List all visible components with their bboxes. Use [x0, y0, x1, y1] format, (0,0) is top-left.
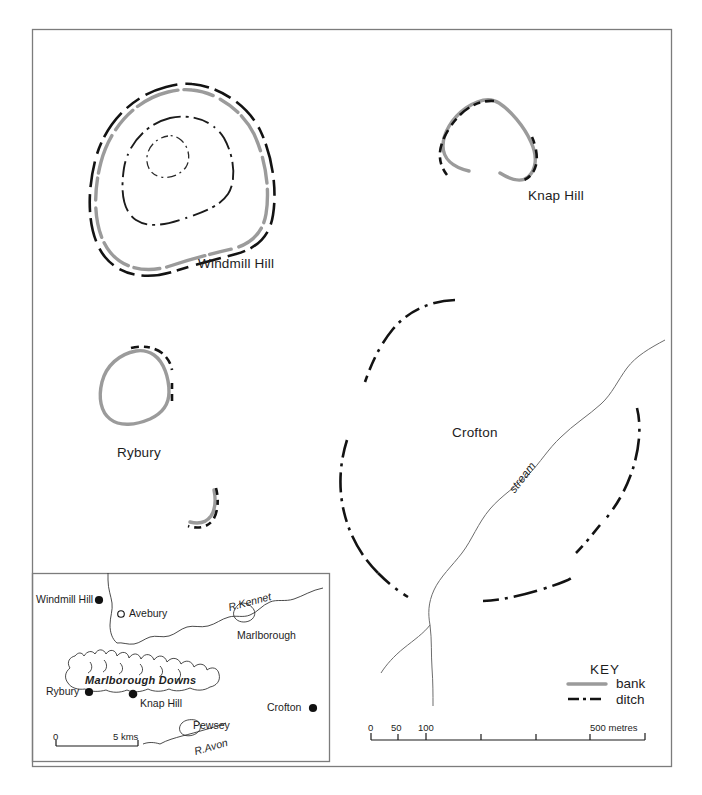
inset-label-knap-hill: Knap Hill — [140, 697, 182, 709]
inset-label-crofton: Crofton — [267, 701, 301, 713]
knap-hill-bank — [443, 100, 535, 180]
inset-marker-rybury — [85, 688, 93, 696]
stream-lower — [430, 625, 433, 706]
windmill-hill-middle-ditch — [123, 117, 234, 225]
crofton-ditch-east — [603, 408, 639, 522]
site-rybury — [100, 347, 217, 528]
crofton-ditch-southeast — [576, 525, 600, 553]
site-knap-hill — [440, 100, 537, 180]
inset-label-rybury: Rybury — [46, 685, 79, 697]
key-swatches — [568, 684, 606, 699]
inset-label-marlborough-downs: Marlborough Downs — [85, 674, 196, 686]
crofton-ditch-west — [340, 440, 378, 573]
stream-line — [429, 340, 665, 625]
inset-label-pewsey: Pewsey — [193, 719, 230, 731]
key-title: KEY — [590, 662, 620, 677]
main-scale-label-50: 50 — [391, 722, 402, 733]
inset-label-avebury: Avebury — [129, 607, 167, 619]
main-scale-bar — [371, 733, 645, 740]
inset-river-avon-west — [143, 743, 160, 745]
inset-scale-label-0: 0 — [53, 731, 58, 742]
main-scale-label-max: 500 metres — [590, 722, 638, 733]
label-crofton: Crofton — [452, 425, 498, 440]
figure-root: .bank{fill:none;stroke:#9b9b9b;stroke-wi… — [0, 0, 702, 795]
inset-label-marlborough: Marlborough — [237, 629, 296, 641]
crofton-ditch-north — [365, 300, 455, 382]
windmill-hill-outer-ditch — [90, 84, 275, 276]
rybury-outlier-bank — [190, 490, 215, 523]
inset-label-windmill-hill: Windmill Hill — [36, 593, 93, 605]
key-label-bank: bank — [616, 676, 645, 691]
main-scale-label-0: 0 — [368, 722, 373, 733]
inset-river-kennet-tributary — [108, 573, 117, 643]
main-scale-label-100: 100 — [418, 722, 434, 733]
site-windmill-hill — [90, 84, 275, 276]
inset-marker-knap-hill — [129, 690, 138, 699]
label-windmill-hill: Windmill Hill — [198, 256, 274, 271]
site-crofton — [340, 300, 665, 706]
inset-marker-avebury — [118, 611, 125, 618]
crofton-ditch-southwest — [378, 573, 408, 597]
windmill-hill-outer-bank — [96, 90, 268, 270]
stream-tributary — [381, 625, 430, 673]
crofton-ditch-south — [483, 575, 573, 601]
label-rybury: Rybury — [117, 445, 161, 460]
inset-marker-windmill-hill — [95, 596, 103, 604]
rybury-bank — [100, 351, 169, 425]
inset-marker-crofton — [309, 704, 317, 712]
knap-hill-ditch-west — [440, 101, 494, 175]
label-knap-hill: Knap Hill — [528, 188, 584, 203]
inset-scale-label-max: 5 kms — [113, 731, 138, 742]
windmill-hill-inner-ditch — [147, 136, 189, 178]
key-label-ditch: ditch — [616, 692, 645, 707]
